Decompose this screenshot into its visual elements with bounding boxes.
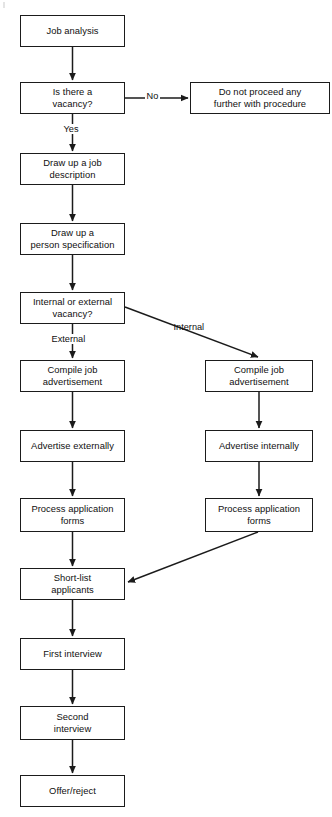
edge-label-internal: Internal bbox=[172, 322, 206, 332]
node-label: Second interview bbox=[51, 711, 94, 734]
node-process-application-forms-external[interactable]: Process application forms bbox=[20, 498, 125, 532]
flowchart-canvas: Job analysis Is there a vacancy? Do not … bbox=[0, 0, 332, 817]
node-second-interview[interactable]: Second interview bbox=[20, 706, 125, 740]
node-label: Internal or external vacancy? bbox=[30, 296, 115, 319]
node-label: Draw up a person specification bbox=[28, 227, 118, 250]
edge-label-external: External bbox=[50, 334, 87, 344]
node-label: Job analysis bbox=[43, 25, 101, 37]
node-is-there-a-vacancy[interactable]: Is there a vacancy? bbox=[20, 82, 125, 114]
node-label: Do not proceed any further with procedur… bbox=[211, 86, 309, 109]
edge-label-no: No bbox=[145, 91, 160, 101]
node-draw-up-job-description[interactable]: Draw up a job description bbox=[20, 153, 125, 185]
node-label: Compile job advertisement bbox=[40, 364, 106, 387]
node-label: Draw up a job description bbox=[40, 157, 105, 180]
node-offer-reject[interactable]: Offer/reject bbox=[20, 775, 125, 807]
node-compile-job-advertisement-external[interactable]: Compile job advertisement bbox=[20, 360, 125, 392]
edge-label-yes: Yes bbox=[62, 124, 80, 134]
node-advertise-internally[interactable]: Advertise internally bbox=[205, 430, 313, 462]
node-compile-job-advertisement-internal[interactable]: Compile job advertisement bbox=[205, 360, 313, 392]
node-do-not-proceed[interactable]: Do not proceed any further with procedur… bbox=[190, 82, 330, 114]
node-label: Advertise externally bbox=[28, 440, 117, 452]
node-label: First interview bbox=[40, 648, 105, 660]
node-advertise-externally[interactable]: Advertise externally bbox=[20, 430, 125, 462]
flowchart-connectors bbox=[0, 0, 332, 817]
node-label: Offer/reject bbox=[46, 785, 99, 797]
node-internal-or-external-vacancy[interactable]: Internal or external vacancy? bbox=[20, 292, 125, 324]
connector-process-internal-to-shortlist bbox=[128, 532, 258, 582]
node-label: Advertise internally bbox=[216, 440, 302, 452]
node-label: Is there a vacancy? bbox=[49, 86, 95, 109]
node-label: Short-list applicants bbox=[48, 572, 97, 595]
node-label: Process application forms bbox=[215, 503, 303, 526]
node-first-interview[interactable]: First interview bbox=[20, 638, 125, 670]
node-process-application-forms-internal[interactable]: Process application forms bbox=[205, 498, 313, 532]
node-job-analysis[interactable]: Job analysis bbox=[20, 15, 125, 47]
node-draw-up-person-specification[interactable]: Draw up a person specification bbox=[20, 223, 125, 255]
node-label: Compile job advertisement bbox=[226, 364, 292, 387]
connector-internal-external-to-compile-internal bbox=[125, 307, 258, 357]
node-label: Process application forms bbox=[28, 503, 116, 526]
node-short-list-applicants[interactable]: Short-list applicants bbox=[20, 568, 125, 600]
